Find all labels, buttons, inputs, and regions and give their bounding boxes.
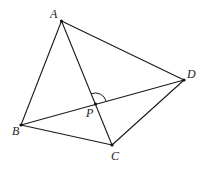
label-a: A xyxy=(49,7,58,21)
vertices xyxy=(19,19,185,146)
vertex-d-dot xyxy=(182,78,185,81)
segment-ad xyxy=(62,21,185,80)
label-b: B xyxy=(12,124,20,138)
labels: A B C D P xyxy=(12,7,196,163)
segments xyxy=(21,21,184,145)
vertex-a-dot xyxy=(60,19,63,22)
label-d: D xyxy=(186,67,196,81)
segment-ab xyxy=(21,21,62,125)
segment-bc xyxy=(21,125,112,145)
vertex-b-dot xyxy=(19,123,22,126)
vertex-c-dot xyxy=(110,143,113,146)
label-c: C xyxy=(111,149,120,163)
geometry-diagram: A B C D P xyxy=(0,0,207,177)
label-p: P xyxy=(85,106,94,120)
segment-ac xyxy=(62,21,113,145)
vertex-p-dot xyxy=(94,102,97,105)
